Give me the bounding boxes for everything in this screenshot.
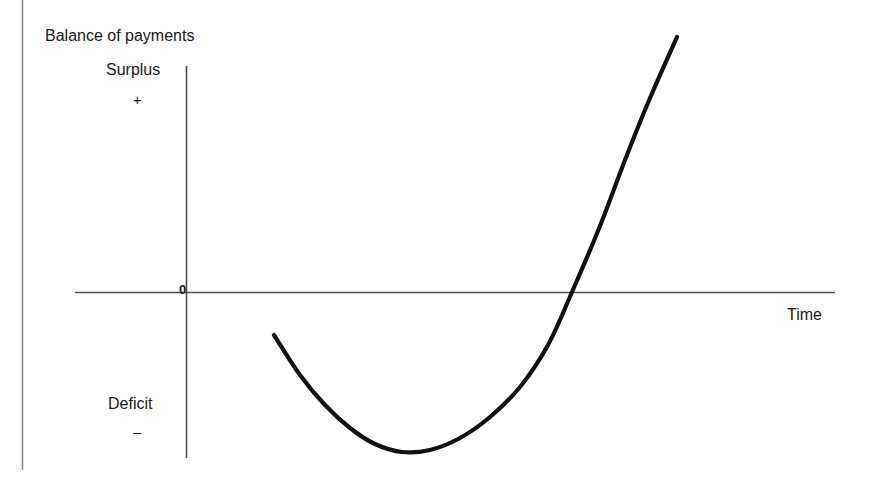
origin-zero-label: 0 xyxy=(179,283,186,296)
page-title: Balance of payments xyxy=(45,28,194,44)
y-axis-minus-sign: – xyxy=(133,424,141,439)
figure-canvas: Balance of payments Surplus + Deficit – … xyxy=(0,0,878,480)
y-axis-plus-sign: + xyxy=(133,92,142,107)
y-axis-surplus-label: Surplus xyxy=(106,62,160,78)
j-curve-path xyxy=(274,37,677,452)
x-axis-time-label: Time xyxy=(787,307,822,323)
y-axis-deficit-label: Deficit xyxy=(108,396,152,412)
